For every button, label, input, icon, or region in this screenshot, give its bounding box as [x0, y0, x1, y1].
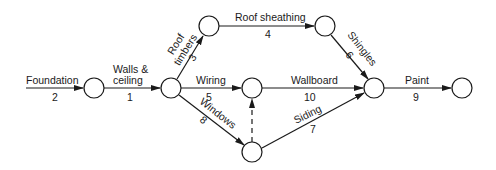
duration-shingles: 6 — [343, 49, 356, 61]
duration-siding: 7 — [310, 123, 316, 135]
label-foundation: Foundation — [26, 74, 79, 86]
duration-foundation: 2 — [52, 91, 58, 103]
node-7 — [364, 78, 384, 98]
duration-walls: 1 — [127, 91, 133, 103]
node-2 — [161, 78, 181, 98]
node-1 — [84, 78, 104, 98]
node-8 — [452, 78, 472, 98]
node-5 — [242, 142, 262, 162]
duration-paint: 9 — [413, 91, 419, 103]
label-roof-sheathing: Roof sheathing — [235, 11, 306, 23]
label-wiring: Wiring — [196, 74, 226, 86]
label-siding: Siding — [292, 102, 324, 126]
node-3 — [199, 16, 219, 36]
label-walls-line2: ceiling — [113, 74, 143, 86]
network-diagram: Foundation 2 Walls & ceiling 1 Roof timb… — [0, 0, 496, 170]
duration-roof-sheathing: 4 — [265, 28, 271, 40]
label-shingles: Shingles — [345, 29, 379, 68]
label-wallboard: Wallboard — [291, 74, 338, 86]
duration-wallboard: 10 — [304, 91, 316, 103]
duration-windows: 8 — [198, 113, 210, 126]
node-4 — [242, 78, 262, 98]
label-paint: Paint — [405, 74, 429, 86]
node-6 — [315, 16, 335, 36]
